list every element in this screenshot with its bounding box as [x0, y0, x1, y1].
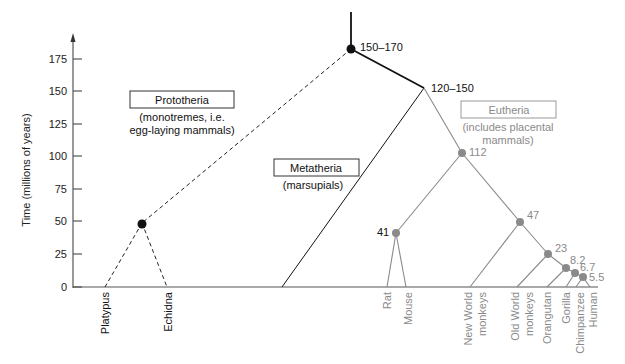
label-root: 150–170: [360, 41, 403, 53]
label-5-5: 5.5: [589, 271, 604, 283]
label-41: 41: [377, 226, 389, 238]
leaf-rat: Rat: [381, 292, 393, 309]
tick-50: 50: [55, 215, 67, 227]
tick-100: 100: [49, 150, 67, 162]
leaf-platypus: Platypus: [99, 292, 111, 335]
node-41: [392, 229, 400, 237]
leaf-echidna: Echidna: [162, 291, 174, 332]
leaf-orangutan: Orangutan: [541, 292, 553, 344]
leaf-gorilla: Gorilla: [560, 291, 572, 324]
tick-0: 0: [61, 281, 67, 293]
eutheria-desc-2: mammals): [482, 134, 533, 146]
node-112: [458, 149, 466, 157]
label-112: 112: [469, 146, 487, 158]
theria-branches: [282, 12, 424, 287]
eutheria-title: Eutheria: [489, 104, 531, 116]
leaf-owm-line1: Old World: [509, 292, 521, 341]
leaf-human: Human: [587, 292, 599, 327]
prototheria-title: Prototheria: [155, 94, 210, 106]
tick-25: 25: [55, 248, 67, 260]
label-theria: 120–150: [431, 82, 474, 94]
metatheria-desc-1: (marsupials): [283, 179, 344, 191]
metatheria-title: Metatheria: [290, 162, 343, 174]
leaf-owm-line2: monkeys: [523, 292, 535, 337]
leaf-mouse: Mouse: [402, 292, 414, 325]
label-23: 23: [555, 242, 567, 254]
tick-175: 175: [49, 53, 67, 65]
tick-75: 75: [55, 183, 67, 195]
node-root: [347, 45, 356, 54]
prototheria-desc-1: (monotremes, i.e.: [139, 111, 225, 123]
y-axis-label: Time (millions of years): [20, 113, 32, 226]
leaf-nwm-line2: monkeys: [476, 292, 488, 337]
label-47: 47: [527, 209, 539, 221]
node-23: [544, 250, 552, 258]
eutheria-desc-1: (includes placental: [462, 121, 553, 133]
prototheria-desc-2: egg-laying mammals): [129, 124, 234, 136]
node-47: [516, 218, 524, 226]
axis-arrow-icon: [71, 33, 76, 42]
node-6-7: [571, 269, 579, 277]
node-monotreme: [138, 220, 147, 229]
tick-125: 125: [49, 118, 67, 130]
phylogeny-diagram: 0 25 50 75 100 125 150 175 Time (million…: [0, 0, 625, 364]
node-8-2: [562, 264, 570, 272]
tick-150: 150: [49, 85, 67, 97]
leaf-nwm-line1: New World: [462, 292, 474, 346]
node-5-5: [579, 273, 587, 281]
leaf-chimpanzee: Chimpanzee: [574, 292, 586, 354]
